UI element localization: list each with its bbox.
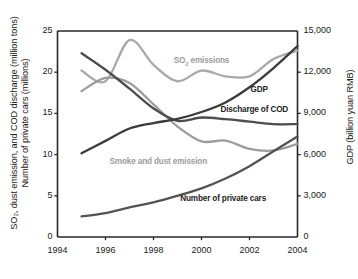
chart-figure: SO₂, dust emission, and COD discharge (m… [0, 0, 358, 279]
y-axis-left-tick-label: 25 [22, 25, 53, 35]
y-axis-left-tick-label: 10 [22, 149, 53, 159]
y-axis-right-tick-label: 9,000 [304, 107, 350, 117]
series-label-number-of-private-cars: Number of private cars [180, 194, 266, 203]
x-axis-tick-label: 2000 [182, 245, 222, 255]
y-axis-right-tick-label: 12,000 [304, 66, 350, 76]
series-label-smoke-and-dust-emission: Smoke and dust emission [110, 157, 208, 166]
series-label-gdp: GDP [250, 85, 267, 94]
y-axis-left-tick-label: 15 [22, 107, 53, 117]
series-line-number-of-private-cars [82, 136, 298, 216]
y-axis-right-tick-label: 6,000 [304, 149, 350, 159]
x-axis-tick-label: 1996 [86, 245, 126, 255]
x-axis-tick-label: 1994 [38, 245, 78, 255]
y-axis-right-tick-label: 0 [304, 231, 350, 241]
x-axis-tick-label: 1998 [134, 245, 174, 255]
y-axis-right-tick-label: 3,000 [304, 190, 350, 200]
series-label-discharge-of-cod: Discharge of COD [220, 105, 288, 114]
x-axis-tick-label: 2002 [230, 245, 270, 255]
x-axis-tick-label: 2004 [278, 245, 318, 255]
y-axis-right-tick-label: 15,000 [304, 25, 350, 35]
y-axis-left-tick-label: 5 [22, 190, 53, 200]
y-axis-left-tick-label: 20 [22, 66, 53, 76]
y-axis-left-tick-label: 0 [22, 231, 53, 241]
series-label-so-emissions: SO2 emissions [174, 56, 230, 67]
